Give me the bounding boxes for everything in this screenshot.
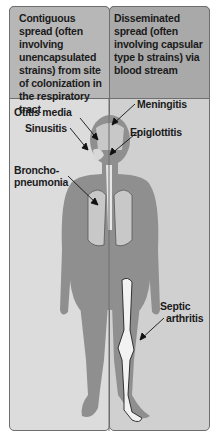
label-bronchopneumonia-line2: pneumonia	[14, 176, 68, 188]
label-otitis-media: Otitis media	[14, 106, 72, 118]
label-septic-arthritis-line1: Septic	[160, 300, 190, 312]
label-septic-arthritis-line2: arthritis	[166, 312, 203, 324]
label-sinusitis: Sinusitis	[25, 122, 67, 134]
label-epiglottitis: Epiglottitis	[130, 126, 182, 138]
label-meningitis: Meningitis	[137, 98, 187, 110]
human-body-silhouette-icon	[0, 0, 218, 438]
label-bronchopneumonia-line1: Broncho-	[14, 164, 59, 176]
